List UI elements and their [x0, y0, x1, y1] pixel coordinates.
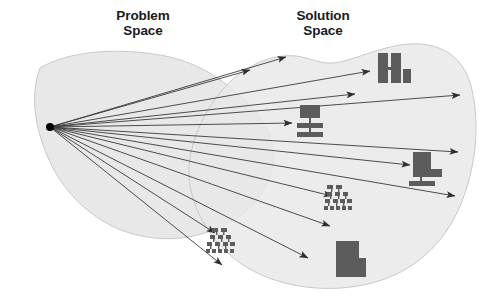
problem-space-label: Problem Space — [88, 8, 198, 38]
diagram-canvas: Problem Space Solution Space — [0, 0, 490, 305]
source-point — [46, 123, 54, 131]
diagram-svg — [0, 0, 490, 305]
solution-space-label: Solution Space — [268, 8, 378, 38]
